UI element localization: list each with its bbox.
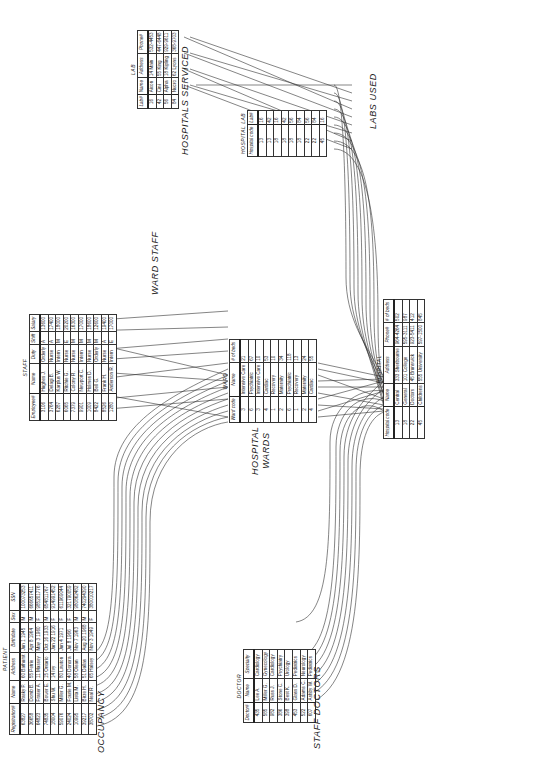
table-cell: Miller G. xyxy=(262,678,270,702)
col-address: Address xyxy=(138,54,149,78)
table-cell: Domb B. xyxy=(28,680,36,703)
table-cell: M xyxy=(74,611,82,623)
table-cell: 84 xyxy=(312,110,320,124)
table-cell: 19400 xyxy=(101,315,109,332)
table-cell: 321790059 xyxy=(66,584,74,611)
doctor-table: DOCTOR Doctor# Name Specialty 435Lee A.C… xyxy=(236,649,316,723)
table-cell: 22 xyxy=(410,407,418,439)
table-cell: 1 xyxy=(271,396,279,422)
table-cell: 118 xyxy=(286,340,294,363)
col-lab-number: Lab# xyxy=(248,110,259,124)
table-cell: 24024 xyxy=(66,703,74,734)
col-birthdate: Birthdate xyxy=(10,622,21,652)
col-ward-code: Ward code xyxy=(230,396,241,422)
table-cell: 45 xyxy=(417,407,425,439)
col-ssn: SSN xyxy=(10,584,21,611)
table-cell: F xyxy=(36,611,44,623)
table-cell: 101 College xyxy=(402,346,410,383)
col-beds: # of beds xyxy=(230,340,241,363)
col-name: Name xyxy=(30,364,41,394)
table-cell: Birze H. xyxy=(81,680,89,703)
hospital-lab-table-title: HOSPITAL LAB xyxy=(240,110,246,157)
lab-grid: Lab# Name Address Phone# 16Aixon14 Main5… xyxy=(137,30,179,109)
table-cell: 45 Brunswick xyxy=(410,346,418,383)
table-cell: 398 xyxy=(285,702,293,722)
table-cell: 16 xyxy=(258,110,266,124)
table-cell: Ritchie G. xyxy=(63,364,71,394)
table-row: 1Recovery10 xyxy=(271,340,279,423)
table-cell: General xyxy=(402,383,410,406)
table-cell: Pediatrics xyxy=(292,650,300,678)
table-row: 1856 xyxy=(289,110,297,156)
table-row: 16Aixon14 Main532-4453 xyxy=(148,30,156,108)
hospital-lab-table: HOSPITAL LAB Hospital code Lab# 13161342… xyxy=(240,110,327,157)
table-cell: Nucro xyxy=(171,78,179,94)
table-row: 2Maternity34 xyxy=(278,340,286,423)
table-row: 22Doctors45 Brunswick923-5411412 xyxy=(410,300,418,439)
table-cell: 53 xyxy=(263,340,271,363)
table-cell: 597-1500 xyxy=(417,323,425,346)
table-cell: Intern xyxy=(56,345,64,364)
col-specialty: Specialty xyxy=(244,650,255,678)
hospital-wards-label-line2: WARDS xyxy=(261,426,272,475)
table-cell: Bell G. xyxy=(94,364,102,394)
ward-table: WARD Ward code Name # of beds 3Intensive… xyxy=(222,339,317,423)
table-cell: Gynecology xyxy=(262,650,270,678)
table-cell: 15 Ontario xyxy=(43,653,51,681)
table-cell: 333 Sherbourne xyxy=(394,346,402,383)
table-row: 64823Fraser A.11 MasseyMay 3 1960F985201… xyxy=(36,584,44,735)
table-cell: Intern xyxy=(78,345,86,364)
table-row: 1842 xyxy=(281,110,289,156)
table-cell: Delagi B. xyxy=(48,364,56,394)
col-lab-number: Lab# xyxy=(138,94,149,108)
col-hospital-code: Hospital code xyxy=(384,407,395,439)
table-cell: Intensive Care xyxy=(240,363,248,397)
table-row: 1009Holmes D.NurseM18600 xyxy=(86,315,94,421)
table-cell: Psychiatry xyxy=(277,650,285,678)
table-cell: Shu W. xyxy=(51,680,59,703)
table-row: 6Psychiatric118 xyxy=(286,340,294,423)
table-cell: Maternity xyxy=(301,363,309,397)
labs-used-label: LABS USED xyxy=(368,73,378,129)
table-cell: Apr 8 1964 xyxy=(28,622,36,652)
table-cell: 13600 xyxy=(40,315,48,332)
table-cell: 3 xyxy=(256,396,264,422)
table-cell: Holmes D. xyxy=(86,364,94,394)
table-cell: Cardiac xyxy=(263,363,271,397)
table-cell: 55 Petrie xyxy=(28,653,36,681)
table-row: 3Intensive Care21 xyxy=(240,340,248,423)
table-cell: E xyxy=(109,332,117,345)
col-name: Name xyxy=(138,78,149,94)
table-cell: Intensive Care xyxy=(256,363,264,397)
table-cell: Nov 3 1949 xyxy=(89,622,97,652)
table-cell: Newport C. xyxy=(78,364,86,394)
table-row: 8422Bell G.OrderlyM12600 xyxy=(94,315,102,421)
table-cell: 42 xyxy=(156,94,164,108)
staff-grid: Employee# Name Duty Shift Salary 3106Hug… xyxy=(29,314,117,421)
table-row: 3764Delagi B.NurseA17400 xyxy=(48,315,56,421)
table-row: 453Glass D.Pediatrics xyxy=(292,650,300,723)
table-row: 1884 xyxy=(296,110,304,156)
table-cell: Aixon xyxy=(148,78,156,94)
col-phone: Phone# xyxy=(138,30,149,53)
table-cell: 18 xyxy=(296,125,304,157)
table-cell: Nurse xyxy=(63,345,71,364)
table-row: 982Russ J.Cardiology xyxy=(270,650,278,723)
table-row: 74835Bower E.15 OntarioOct 16 1933M65481… xyxy=(43,584,51,735)
table-cell: 100073253 xyxy=(20,584,28,611)
table-cell: 595-3111 xyxy=(402,323,410,346)
table-row: 3Intensive Care10 xyxy=(256,340,264,423)
table-cell: Nurse xyxy=(101,345,109,364)
table-row: 4Cardiac53 xyxy=(263,340,271,423)
table-cell: 42 xyxy=(281,110,289,124)
table-cell: Cini xyxy=(156,78,164,94)
table-cell: 964-4264 xyxy=(394,323,402,346)
table-row: 386Stone C.Psychiatry xyxy=(277,650,285,723)
table-cell: 914991452 xyxy=(51,584,59,611)
table-cell: 17000 xyxy=(109,315,117,332)
table-cell: 13 xyxy=(258,125,266,157)
table-cell: 7379 xyxy=(71,394,79,421)
table-cell: F xyxy=(89,611,97,623)
col-name: Name xyxy=(244,678,255,702)
table-cell: M xyxy=(78,332,86,345)
